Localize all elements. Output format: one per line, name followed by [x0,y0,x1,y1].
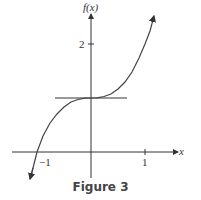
figure-caption: Figure 3 [0,180,201,194]
y-tick-label-2: 2 [79,38,85,50]
x-axis-label: x [178,145,184,157]
chart-figure: f(x) x −1 1 2 [0,0,201,200]
x-tick-label-neg1: −1 [39,156,51,168]
y-axis-label: f(x) [83,1,99,14]
x-tick-label-1: 1 [142,156,148,168]
